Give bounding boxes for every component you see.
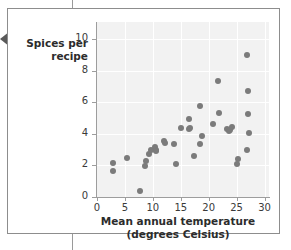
data-point <box>244 52 250 58</box>
page-rule-bottom <box>72 234 73 250</box>
y-tick-mark <box>92 165 96 166</box>
y-tick-mark <box>92 102 96 103</box>
y-tick-mark <box>92 134 96 135</box>
data-point <box>197 141 203 147</box>
x-tick-mark <box>125 197 126 201</box>
data-point <box>178 125 184 131</box>
x-tick-label: 15 <box>169 202 193 213</box>
data-point <box>215 78 221 84</box>
gridline-vertical <box>181 22 182 197</box>
x-tick-label: 5 <box>113 202 137 213</box>
gridline-vertical <box>153 22 154 197</box>
gridline-horizontal <box>97 39 269 40</box>
data-point <box>210 121 216 127</box>
x-tick-label: 25 <box>225 202 249 213</box>
gridline-vertical <box>209 22 210 197</box>
data-point <box>162 140 168 146</box>
x-tick-mark <box>153 197 154 201</box>
scatter-chart: Spices per recipe 051015202530 0246810 M… <box>8 9 281 235</box>
data-point <box>246 130 252 136</box>
y-tick-mark <box>92 71 96 72</box>
data-point <box>245 111 251 117</box>
figure-frame: Spices per recipe 051015202530 0246810 M… <box>7 8 280 234</box>
x-axis-title-line1: Mean annual temperature <box>101 215 255 227</box>
x-tick-mark <box>237 197 238 201</box>
data-point <box>142 163 148 169</box>
x-axis-line <box>96 197 270 198</box>
x-tick-mark <box>97 197 98 201</box>
y-axis-title-line2: recipe <box>51 50 88 62</box>
gridline-vertical <box>237 22 238 197</box>
x-tick-mark <box>181 197 182 201</box>
data-point <box>244 147 250 153</box>
x-tick-mark <box>209 197 210 201</box>
gridline-horizontal <box>97 165 269 166</box>
data-point <box>186 116 192 122</box>
data-point <box>137 188 143 194</box>
data-point <box>229 124 235 130</box>
gridline-horizontal <box>97 102 269 103</box>
x-tick-label: 10 <box>141 202 165 213</box>
data-point <box>235 156 241 162</box>
y-tick-label: 2 <box>66 158 88 169</box>
y-tick-label: 4 <box>66 127 88 138</box>
data-point <box>171 141 177 147</box>
data-point <box>191 153 197 159</box>
gridline-horizontal <box>97 134 269 135</box>
data-point <box>187 125 193 131</box>
data-point <box>216 110 222 116</box>
data-point <box>245 88 251 94</box>
x-tick-mark <box>265 197 266 201</box>
gridline-vertical <box>125 22 126 197</box>
data-point <box>143 158 149 164</box>
y-tick-label: 10 <box>66 32 88 43</box>
x-tick-label: 30 <box>253 202 277 213</box>
x-axis-title-line2: (degrees Celsius) <box>78 228 278 241</box>
data-point <box>110 168 116 174</box>
y-tick-mark <box>92 197 96 198</box>
y-axis-line <box>96 22 97 198</box>
data-point <box>199 133 205 139</box>
x-tick-label: 0 <box>85 202 109 213</box>
y-tick-mark <box>92 39 96 40</box>
y-tick-label: 0 <box>66 190 88 201</box>
y-tick-label: 6 <box>66 95 88 106</box>
x-axis-title: Mean annual temperature (degrees Celsius… <box>78 215 278 241</box>
y-tick-label: 8 <box>66 64 88 75</box>
data-point <box>197 103 203 109</box>
gridline-vertical <box>265 22 266 197</box>
plot-area <box>97 22 269 197</box>
gridline-horizontal <box>97 71 269 72</box>
data-point <box>124 155 130 161</box>
x-tick-label: 20 <box>197 202 221 213</box>
data-point <box>153 148 159 154</box>
